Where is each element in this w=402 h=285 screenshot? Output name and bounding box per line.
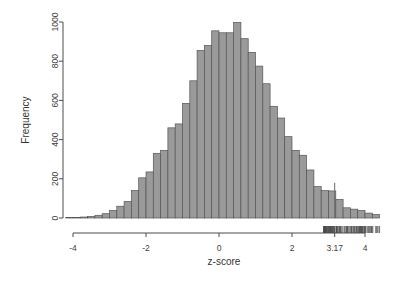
- histogram-bar: [321, 191, 328, 218]
- histogram-bar: [102, 214, 109, 218]
- histogram-bar: [358, 211, 365, 218]
- histogram-bar: [277, 118, 284, 218]
- histogram-bar: [292, 150, 299, 218]
- y-axis-tick-label: 200: [50, 171, 60, 185]
- histogram-bar: [285, 137, 292, 218]
- histogram-bar: [110, 211, 117, 218]
- y-axis-tick-label: 1000: [50, 12, 60, 31]
- histogram-bar: [153, 153, 160, 218]
- histogram-bar: [197, 50, 204, 218]
- histogram-bar: [299, 155, 306, 218]
- histogram-bar: [175, 124, 182, 218]
- histogram-bar: [183, 103, 190, 218]
- histogram-bar: [146, 172, 153, 218]
- plot-canvas: 02004006008001000Frequency-4-2023.174z-s…: [0, 0, 402, 285]
- histogram-bar: [168, 128, 175, 218]
- x-axis-tick-label: 4: [363, 243, 368, 253]
- histogram-figure: 02004006008001000Frequency-4-2023.174z-s…: [0, 0, 402, 285]
- histogram-bar: [66, 217, 73, 218]
- histogram-bar: [139, 178, 146, 218]
- rug-plot: [324, 226, 380, 233]
- histogram-bar: [336, 199, 343, 218]
- y-axis-tick-label: 600: [50, 93, 60, 107]
- histogram-bar: [314, 187, 321, 218]
- histogram-bar: [80, 217, 87, 218]
- histogram-bar: [226, 33, 233, 218]
- y-axis-tick-label: 400: [50, 132, 60, 146]
- histogram-bar: [131, 191, 138, 218]
- y-axis-tick-label: 800: [50, 54, 60, 68]
- histogram-bar: [73, 217, 80, 218]
- histogram-bar: [117, 206, 124, 218]
- histogram-bar: [343, 208, 350, 218]
- histogram-bar: [256, 66, 263, 218]
- histogram-bar: [263, 84, 270, 218]
- y-axis-tick-label: 0: [50, 215, 60, 220]
- histogram-bar: [372, 214, 379, 218]
- histogram-bar: [88, 216, 95, 218]
- histogram-bar: [365, 213, 372, 218]
- histogram-bar: [307, 170, 314, 218]
- x-axis-title: z-score: [208, 256, 241, 267]
- histogram-bar: [241, 39, 248, 218]
- x-axis-tick-label: 0: [217, 243, 222, 253]
- histogram-bar: [219, 33, 226, 218]
- histogram-bar: [350, 209, 357, 218]
- histogram-bar: [161, 150, 168, 218]
- histogram-bar: [95, 215, 102, 218]
- histogram-bars: [66, 22, 380, 218]
- histogram-bar: [248, 52, 255, 218]
- x-axis-tick-label: -4: [69, 243, 77, 253]
- histogram-bar: [124, 202, 131, 218]
- x-axis-tick-label: -2: [142, 243, 150, 253]
- x-axis-tick-label: 3.17: [326, 243, 343, 253]
- histogram-bar: [234, 22, 241, 218]
- y-axis-title: Frequency: [20, 96, 31, 143]
- histogram-bar: [190, 81, 197, 218]
- histogram-bar: [270, 106, 277, 218]
- histogram-bar: [212, 31, 219, 218]
- x-axis-tick-label: 2: [290, 243, 295, 253]
- histogram-bar: [204, 46, 211, 218]
